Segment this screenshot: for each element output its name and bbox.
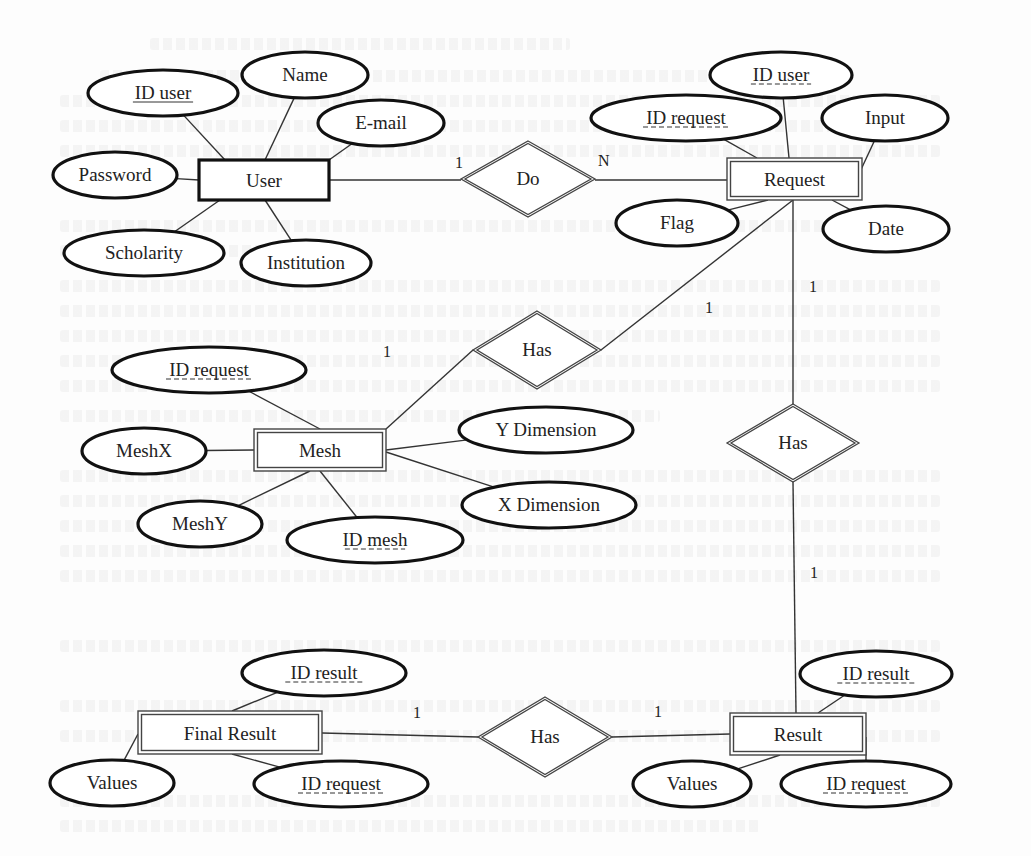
attribute-label: Values: [87, 772, 138, 793]
attribute-request_date[interactable]: Date: [823, 206, 949, 252]
cardinality-label: 1: [809, 278, 817, 295]
attribute-label: ID user: [135, 82, 192, 103]
attribute-label: Values: [667, 773, 718, 794]
entity-label: Result: [774, 724, 823, 745]
entity-label: Request: [764, 169, 826, 190]
attribute-label: ID request: [169, 359, 249, 380]
attribute-label: ID request: [826, 773, 906, 794]
entity-label: User: [246, 170, 283, 191]
attribute-user_email[interactable]: E-mail: [318, 100, 444, 146]
attribute-connector: [183, 115, 225, 160]
attribute-mesh_id_request[interactable]: ID request: [112, 347, 306, 393]
attribute-connector: [818, 695, 845, 713]
relationship-label: Has: [530, 726, 560, 747]
attribute-label: Password: [79, 164, 152, 185]
attribute-connector: [737, 755, 780, 769]
attribute-connector: [783, 98, 789, 158]
relationship-has_result_final[interactable]: Has: [478, 697, 612, 777]
attribute-label: ID result: [842, 663, 910, 684]
cardinality-label: N: [598, 152, 610, 169]
attribute-result_values[interactable]: Values: [633, 761, 751, 807]
relationship-label: Has: [778, 432, 808, 453]
attribute-label: ID mesh: [343, 529, 408, 550]
entity-final_result[interactable]: Final Result: [138, 711, 322, 754]
attribute-user_id_user[interactable]: ID user: [88, 70, 238, 116]
attribute-result_id_request[interactable]: ID request: [781, 761, 951, 807]
attribute-connector: [265, 200, 291, 241]
attribute-connector: [386, 440, 467, 450]
relationship-has_request_mesh[interactable]: Has: [473, 311, 601, 389]
attribute-connector: [249, 391, 320, 429]
entity-user[interactable]: User: [199, 160, 329, 200]
attribute-mesh_id_mesh[interactable]: ID mesh: [287, 517, 463, 563]
entity-label: Mesh: [299, 440, 342, 461]
attribute-connector: [232, 692, 278, 711]
attribute-connector: [386, 452, 494, 487]
attribute-user_institution[interactable]: Institution: [241, 240, 371, 286]
attribute-user_password[interactable]: Password: [53, 152, 177, 198]
cardinality-label: 1: [810, 564, 818, 581]
cardinality-label: 1: [383, 343, 391, 360]
cardinality-label: 1: [654, 703, 662, 720]
attribute-label: Date: [868, 218, 904, 239]
entity-result[interactable]: Result: [730, 713, 866, 755]
attribute-connector: [320, 471, 357, 517]
attribute-connector: [832, 200, 851, 210]
cardinality-label: 1: [413, 704, 421, 721]
attribute-label: E-mail: [355, 112, 407, 133]
attribute-result_id_result[interactable]: ID result: [800, 651, 952, 697]
attribute-request_id_request[interactable]: ID request: [591, 95, 781, 141]
attribute-request_id_user[interactable]: ID user: [710, 52, 852, 98]
attribute-label: MeshY: [172, 513, 228, 534]
attribute-request_input[interactable]: Input: [822, 95, 948, 141]
entity-request[interactable]: Request: [727, 158, 862, 200]
attribute-label: MeshX: [116, 440, 172, 461]
entity-mesh[interactable]: Mesh: [254, 429, 386, 471]
attribute-label: ID user: [753, 64, 810, 85]
attribute-user_scholarity[interactable]: Scholarity: [64, 230, 224, 276]
attribute-request_flag[interactable]: Flag: [616, 200, 738, 246]
relationship-do[interactable]: Do: [461, 141, 595, 217]
attribute-label: ID request: [301, 773, 381, 794]
attribute-connector: [176, 179, 199, 180]
attribute-connector: [724, 139, 757, 158]
relationship-links: [322, 180, 796, 737]
attribute-label: Institution: [267, 252, 346, 273]
er-diagram: DoHasHasHas UserRequestMeshFinal ResultR…: [0, 0, 1031, 856]
relationship-link: [386, 350, 473, 429]
relationship-link: [793, 482, 796, 713]
attribute-connector: [124, 734, 138, 760]
attribute-label: Scholarity: [105, 242, 184, 263]
attribute-label: Name: [282, 64, 327, 85]
attribute-final_id_result[interactable]: ID result: [242, 650, 406, 696]
relationship-link: [322, 733, 478, 737]
attribute-mesh_y_dimension[interactable]: Y Dimension: [459, 407, 633, 453]
attribute-label: Y Dimension: [495, 419, 597, 440]
attribute-mesh_x_dimension[interactable]: X Dimension: [462, 482, 636, 528]
relationship-label: Has: [522, 339, 552, 360]
attribute-user_name[interactable]: Name: [242, 52, 368, 98]
cardinality-label: 1: [705, 299, 713, 316]
entity-label: Final Result: [184, 723, 277, 744]
attribute-connector: [728, 200, 768, 210]
attribute-mesh_meshx[interactable]: MeshX: [82, 428, 206, 474]
attribute-label: Flag: [660, 212, 694, 233]
attribute-label: ID result: [290, 662, 358, 683]
attribute-label: X Dimension: [498, 494, 600, 515]
attribute-connector: [265, 98, 294, 160]
attribute-final_id_request[interactable]: ID request: [254, 761, 428, 807]
attribute-connector: [329, 143, 352, 160]
attribute-connector: [238, 471, 310, 506]
attribute-connector: [174, 200, 220, 232]
attribute-label: ID request: [646, 107, 726, 128]
relationship-label: Do: [516, 168, 539, 189]
relationship-has_request_result[interactable]: Has: [727, 404, 859, 482]
attribute-final_values[interactable]: Values: [50, 760, 174, 806]
attribute-label: Input: [865, 107, 906, 128]
attribute-mesh_meshy[interactable]: MeshY: [138, 501, 262, 547]
attribute-connector: [232, 754, 281, 767]
cardinality-label: 1: [455, 154, 463, 171]
relationship-link: [612, 734, 730, 737]
er-diagram-canvas: DoHasHasHas UserRequestMeshFinal ResultR…: [0, 0, 1031, 856]
